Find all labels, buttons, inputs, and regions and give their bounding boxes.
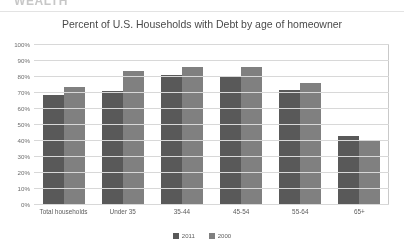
gridline: 40% — [34, 140, 389, 141]
bar-group — [212, 45, 271, 205]
gridline: 100% — [34, 44, 389, 45]
chart-title: Percent of U.S. Households with Debt by … — [0, 18, 404, 30]
y-axis-tick-label: 80% — [18, 73, 34, 80]
x-axis-category-label: Total households — [34, 208, 93, 215]
bar-group — [330, 45, 389, 205]
x-axis-labels: Total householdsUnder 3535-4445-5455-646… — [34, 208, 389, 215]
x-axis-category-label: 65+ — [330, 208, 389, 215]
gridline: 10% — [34, 188, 389, 189]
y-axis-tick-label: 30% — [18, 153, 34, 160]
y-axis-tick-label: 70% — [18, 89, 34, 96]
bar — [182, 67, 203, 205]
y-axis-tick-label: 20% — [18, 169, 34, 176]
y-axis-tick-label: 50% — [18, 121, 34, 128]
bar — [359, 141, 380, 205]
gridline: 80% — [34, 76, 389, 77]
x-axis-category-label: 35-44 — [152, 208, 211, 215]
x-axis-category-label: 45-54 — [212, 208, 271, 215]
document-section-heading: WEALTH — [14, 0, 68, 8]
y-axis-tick-label: 40% — [18, 137, 34, 144]
gridline: 30% — [34, 156, 389, 157]
gridline: 20% — [34, 172, 389, 173]
bar-group — [152, 45, 211, 205]
y-axis-tick-label: 10% — [18, 185, 34, 192]
bar-group — [271, 45, 330, 205]
y-axis-tick-label: 0% — [21, 201, 34, 208]
gridline: 60% — [34, 108, 389, 109]
gridline: 90% — [34, 60, 389, 61]
plot-area: 100%90%80%70%60%50%40%30%20%10%0% — [34, 45, 389, 205]
chart-page: WEALTH Percent of U.S. Households with D… — [0, 0, 404, 249]
bar — [123, 71, 144, 205]
legend-label: 2000 — [218, 233, 231, 239]
gridline: 0% — [34, 204, 389, 205]
y-axis-tick-label: 60% — [18, 105, 34, 112]
legend-item[interactable]: 2011 — [173, 233, 195, 239]
y-axis-tick-label: 90% — [18, 57, 34, 64]
chart-legend: 20112000 — [0, 233, 404, 239]
bar-group — [93, 45, 152, 205]
bar-group — [34, 45, 93, 205]
legend-swatch-icon — [209, 233, 215, 239]
gridline: 70% — [34, 92, 389, 93]
legend-item[interactable]: 2000 — [209, 233, 231, 239]
chart-figure: Percent of U.S. Households with Debt by … — [0, 11, 404, 249]
bar — [241, 67, 262, 205]
legend-swatch-icon — [173, 233, 179, 239]
gridline: 50% — [34, 124, 389, 125]
bar — [300, 83, 321, 205]
legend-label: 2011 — [182, 233, 195, 239]
bar-groups — [34, 45, 389, 205]
bar — [338, 136, 359, 205]
x-axis-category-label: Under 35 — [93, 208, 152, 215]
x-axis-category-label: 55-64 — [271, 208, 330, 215]
y-axis-tick-label: 100% — [14, 41, 34, 48]
bar — [220, 77, 241, 205]
